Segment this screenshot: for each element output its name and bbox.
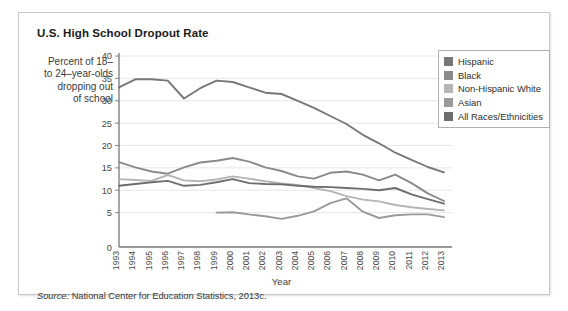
legend-item-label: Black (458, 70, 481, 81)
x-tick-label: 2012 (420, 251, 430, 270)
x-tick-label: 1996 (160, 251, 170, 270)
x-tick-label: 2006 (322, 251, 332, 270)
x-tick-label: 2007 (339, 251, 349, 270)
y-tick-label: 10 (102, 186, 112, 196)
legend-item-label: Non-Hispanic White (458, 83, 541, 94)
legend-swatch-icon (444, 84, 453, 93)
x-tick-label: 2011 (404, 251, 414, 270)
legend-item-asian[interactable]: Asian (444, 96, 543, 110)
series-line-black (119, 158, 444, 201)
y-tick-label: 35 (102, 74, 112, 84)
y-zero-label: 0 (107, 243, 112, 253)
legend-item-all-races-ethnicities[interactable]: All Races/Ethnicities (444, 109, 543, 123)
x-tick-label: 2010 (387, 251, 397, 270)
legend-item-black[interactable]: Black (444, 69, 543, 83)
legend-swatch-icon (444, 98, 453, 107)
x-tick-label: 1999 (209, 251, 219, 270)
x-tick-label: 1997 (176, 251, 186, 270)
legend-item-label: Asian (458, 97, 481, 108)
x-axis-title: Year (272, 276, 292, 287)
legend-swatch-icon (444, 71, 453, 80)
x-tick-label: 2005 (306, 251, 316, 270)
x-tick-label: 1998 (192, 251, 202, 270)
chart-card: U.S. High School Dropout Rate Percent of… (18, 12, 550, 295)
x-tick-label: 2013 (436, 251, 446, 270)
x-tick-label: 1995 (144, 251, 154, 270)
x-tick-label: 2001 (241, 251, 251, 270)
source-note: Source: National Center for Education St… (37, 291, 266, 301)
y-tick-label: 5 (107, 208, 112, 218)
legend-item-hispanic[interactable]: Hispanic (444, 55, 543, 69)
legend-swatch-icon (444, 57, 453, 66)
x-tick-label: 2004 (290, 251, 300, 270)
x-tick-label: 2008 (355, 251, 365, 270)
y-tick-label: 40 (102, 51, 112, 61)
x-tick-label: 2002 (257, 251, 267, 270)
legend-item-label: Hispanic (458, 56, 494, 67)
legend-item-label: All Races/Ethnicities (458, 111, 543, 122)
series-line-hispanic (119, 79, 444, 172)
x-tick-label: 1994 (127, 251, 137, 270)
y-tick-label: 30 (102, 96, 112, 106)
source-label: Source: (37, 291, 69, 301)
source-text: National Center for Education Statistics… (72, 291, 267, 301)
x-tick-label: 1993 (111, 251, 121, 270)
y-tick-label: 20 (102, 141, 112, 151)
x-tick-label: 2009 (371, 251, 381, 270)
chart-legend: HispanicBlackNon-Hispanic WhiteAsianAll … (438, 50, 550, 128)
legend-item-non-hispanic-white[interactable]: Non-Hispanic White (444, 82, 543, 96)
y-tick-label: 25 (102, 119, 112, 129)
legend-swatch-icon (444, 112, 453, 121)
y-tick-label: 15 (102, 163, 112, 173)
x-tick-label: 2000 (225, 251, 235, 270)
x-tick-label: 2003 (274, 251, 284, 270)
series-line-asian (217, 198, 445, 219)
